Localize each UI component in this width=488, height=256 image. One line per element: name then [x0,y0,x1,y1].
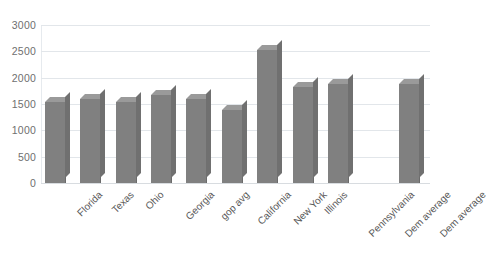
y-tick-label: 2500 [12,45,36,57]
x-tick-label: Florida [75,189,104,218]
y-tick-label: 500 [18,151,36,163]
y-tick-label: 2000 [12,72,36,84]
bar[interactable] [45,102,66,183]
bar-slot [289,25,324,183]
x-tick-label: Texas [109,189,135,215]
bar-slot [182,25,217,183]
bar-side-face [171,85,176,178]
bar-series [41,25,430,183]
bar-side-face [65,92,70,178]
bar[interactable] [328,84,349,183]
bar[interactable] [151,95,172,183]
bar[interactable] [399,84,420,183]
bar-side-face [419,74,424,178]
bar-side-face [100,89,105,178]
bar-side-face [348,74,353,178]
bar[interactable] [222,110,243,183]
bar-slot [359,25,394,183]
bar-side-face [277,40,282,178]
bar-slot [253,25,288,183]
bar-slot [147,25,182,183]
bar-side-face [242,100,247,178]
bar-slot [395,25,430,183]
bar-slot [324,25,359,183]
x-tick-label: Georgia [183,189,216,222]
y-tick-label: 3000 [12,19,36,31]
x-axis: FloridaTexasOhioGeorgiagop avgCalifornia… [41,183,430,256]
bar-side-face [206,89,211,178]
bar[interactable] [257,50,278,183]
bar-side-face [313,77,318,178]
bar[interactable] [186,99,207,183]
y-tick-label: 1500 [12,98,36,110]
bar[interactable] [116,102,137,183]
bar-slot [218,25,253,183]
bar-slot [76,25,111,183]
bar[interactable] [293,87,314,183]
x-tick-label: gop avg [218,189,251,222]
x-tick-label: Ohio [143,189,166,212]
bar[interactable] [80,99,101,183]
x-tick-label: California [256,189,294,227]
bar-side-face [136,92,141,178]
y-tick-label: 0 [30,177,36,189]
y-axis: 300025002000150010005000 [0,0,41,256]
bar-slot [112,25,147,183]
y-tick-label: 1000 [12,124,36,136]
bar-slot [41,25,76,183]
